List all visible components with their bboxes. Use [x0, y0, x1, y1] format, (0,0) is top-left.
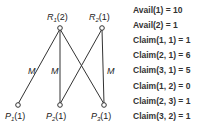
equation-claim-3-2: Claim(3, 2) = 1 [133, 109, 190, 123]
node-p3 [102, 103, 107, 108]
equation-claim-3-1: Claim(3, 1) = 5 [133, 63, 190, 77]
label-p3: P3(1) [91, 111, 111, 122]
edge-r2-p3 [102, 29, 104, 104]
label-p1: P1(1) [5, 111, 25, 122]
equation-avail-2: Avail(2) = 1 [133, 18, 178, 32]
label-r1: R1(2) [47, 12, 68, 23]
equation-avail-1: Avail(1) = 10 [133, 3, 183, 17]
edge-label-r1-p1: M [28, 66, 36, 76]
equation-claim-1-1: Claim(1, 1) = 1 [133, 33, 190, 47]
edge-label-r1-p2: M [51, 66, 59, 76]
equation-claim-2-1: Claim(2, 1) = 6 [133, 48, 190, 62]
label-p2: P2(1) [46, 111, 66, 122]
equation-claim-2-3: Claim(2, 3) = 1 [133, 94, 190, 108]
label-r2: R2(1) [89, 12, 110, 23]
node-r1 [58, 26, 63, 31]
node-r2 [100, 26, 105, 31]
node-p2 [58, 103, 63, 108]
edge-label-r2-p3: M [107, 66, 115, 76]
node-p1 [16, 103, 21, 108]
equation-claim-1-2: Claim(1, 2) = 0 [133, 79, 190, 93]
